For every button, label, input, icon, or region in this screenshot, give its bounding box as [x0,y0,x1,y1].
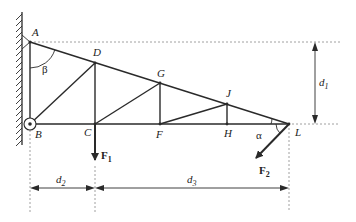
label-L: L [294,126,301,138]
member-FJ [160,104,227,124]
reference-lines [30,42,340,212]
wall-hatching [16,14,22,146]
d3-arrow-left [95,185,104,191]
label-C: C [84,126,92,138]
member-CG [95,83,160,124]
label-F: F [155,128,163,140]
label-F2: F2 [259,164,270,179]
joint-F [159,123,162,126]
label-F1: F1 [101,149,112,164]
label-beta: β [42,63,48,75]
label-D: D [92,46,101,58]
d2-arrow-right [86,185,95,191]
joint-J [226,103,229,106]
label-A: A [31,26,39,38]
alpha-arc [276,124,280,133]
joint-D [94,62,97,65]
label-G: G [157,67,165,79]
joint-H [226,123,229,126]
label-alpha: α [256,129,262,141]
d1-arrow-up [312,42,318,51]
d3-arrow-right [280,185,289,191]
d1-arrow-down [312,115,318,124]
member-BD [30,63,95,124]
joint-G [159,82,162,85]
wall [16,12,22,146]
label-J: J [226,87,232,99]
label-d3: d3 [187,173,197,188]
label-d1: d1 [319,76,329,91]
truss-diagram: A B C D F G H J L β α F1 F2 d1 d2 d3 [0,0,356,222]
label-d2: d2 [56,173,66,188]
label-B: B [35,128,42,140]
d2-arrow-left [30,185,39,191]
joint-A [28,40,31,43]
label-H: H [223,127,233,139]
